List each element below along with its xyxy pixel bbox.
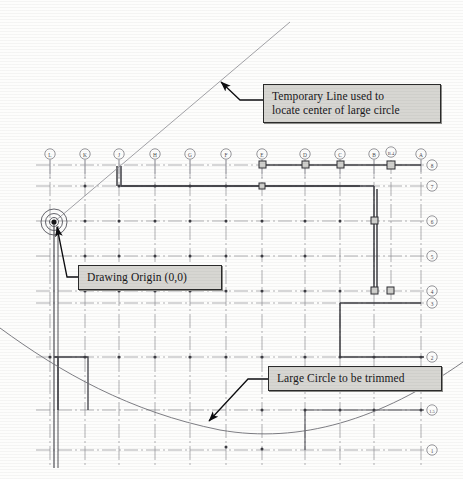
svg-text:K: K: [83, 152, 87, 158]
svg-text:7: 7: [431, 184, 434, 190]
svg-text:3: 3: [431, 301, 434, 307]
svg-text:4: 4: [431, 289, 434, 295]
interior-walls: [305, 410, 424, 450]
svg-text:F: F: [225, 152, 228, 158]
svg-text:2: 2: [431, 355, 434, 361]
svg-text:8: 8: [431, 163, 434, 169]
bubble-leader-stems: [50, 159, 421, 178]
svg-text:J: J: [118, 152, 120, 158]
svg-text:C: C: [338, 152, 342, 158]
svg-text:A: A: [419, 152, 423, 158]
grid-vertical-lines: [50, 160, 421, 468]
svg-text:L: L: [48, 152, 51, 158]
svg-text:B.4: B.4: [388, 151, 395, 156]
grid-horizontal-lines: [36, 165, 424, 450]
svg-text:H: H: [153, 152, 157, 158]
column-grid-bubbles: L K J H G F E D C B B.4: [45, 147, 426, 159]
callout-drawing-origin: Drawing Origin (0,0): [78, 265, 222, 290]
callout-temporary-line: Temporary Line used to locate center of …: [263, 84, 441, 123]
leader-drawing-origin: [57, 227, 78, 277]
svg-text:D: D: [303, 152, 307, 158]
svg-text:5: 5: [431, 254, 434, 260]
callout-large-circle: Large Circle to be trimmed: [268, 366, 442, 391]
leader-temporary-line: [221, 82, 263, 100]
svg-text:1.5: 1.5: [429, 409, 435, 414]
drawing-canvas: L K J H G F E D C B B.4: [0, 0, 463, 479]
cad-drawing-svg: L K J H G F E D C B B.4: [0, 0, 463, 479]
svg-text:B: B: [372, 152, 376, 158]
building-outline: [54, 165, 424, 468]
svg-text:6: 6: [431, 219, 434, 225]
svg-text:G: G: [188, 152, 192, 158]
temporary-construction-line: [54, 22, 290, 222]
row-grid-bubbles: 8 7 6 5 4 3 2 1.5 1: [427, 160, 437, 455]
lower-left-wall: [55, 357, 88, 410]
leader-large-circle: [209, 379, 268, 421]
svg-text:1: 1: [431, 448, 434, 454]
